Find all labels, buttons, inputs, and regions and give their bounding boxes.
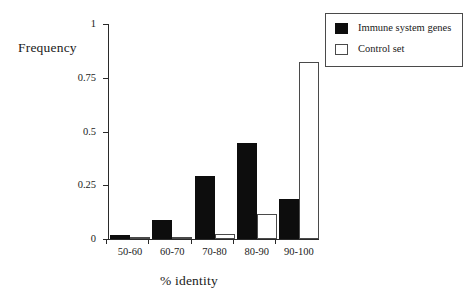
y-axis-tick-label: 1 xyxy=(0,19,96,30)
x-axis-tick-label: 50-60 xyxy=(118,247,143,258)
y-axis-tick-mark xyxy=(103,78,108,79)
bar-control-set-80-90 xyxy=(257,214,277,239)
bar-control-set-70-80 xyxy=(215,234,235,239)
legend-item-control-set: Control set xyxy=(335,44,404,55)
y-axis-title: Frequency xyxy=(18,40,77,56)
legend-swatch-icon xyxy=(335,44,348,55)
y-axis-tick-mark xyxy=(103,24,108,25)
y-axis-tick-mark xyxy=(103,132,108,133)
bar-immune-system-genes-60-70 xyxy=(152,220,172,239)
legend-item-immune-system-genes: Immune system genes xyxy=(335,23,451,34)
y-axis-tick-label: 0.25 xyxy=(0,180,96,191)
bar-immune-system-genes-50-60 xyxy=(110,235,130,239)
legend-swatch-icon xyxy=(335,23,348,34)
bar-control-set-60-70 xyxy=(172,237,192,239)
y-axis-tick-label: 0 xyxy=(0,234,96,245)
x-axis-tick-label: 70-80 xyxy=(202,247,227,258)
bar-immune-system-genes-90-100 xyxy=(279,199,299,239)
x-axis-tick-mark xyxy=(275,239,276,244)
bar-control-set-90-100 xyxy=(299,62,319,239)
legend-label: Immune system genes xyxy=(358,23,451,34)
x-axis-line xyxy=(108,239,319,240)
bar-chart-figure: Frequency % identity Immune system genes… xyxy=(0,0,474,307)
y-axis-tick-label: 0.5 xyxy=(0,126,96,137)
bars-layer xyxy=(108,24,319,239)
x-axis-tick-label: 90-100 xyxy=(284,247,314,258)
bar-control-set-50-60 xyxy=(130,237,150,239)
y-axis-tick-mark xyxy=(103,185,108,186)
chart-legend: Immune system genes Control set xyxy=(325,13,463,67)
x-axis-title: % identity xyxy=(160,273,218,289)
x-axis-tick-label: 80-90 xyxy=(244,247,269,258)
legend-label: Control set xyxy=(358,44,404,55)
y-axis-tick-label: 0.75 xyxy=(0,73,96,84)
bar-immune-system-genes-70-80 xyxy=(195,176,215,239)
bar-immune-system-genes-80-90 xyxy=(237,143,257,239)
x-axis-tick-mark xyxy=(148,239,149,244)
x-axis-tick-mark xyxy=(191,239,192,244)
x-axis-tick-label: 60-70 xyxy=(160,247,185,258)
x-axis-tick-mark xyxy=(233,239,234,244)
x-axis-tick-mark xyxy=(106,239,107,244)
